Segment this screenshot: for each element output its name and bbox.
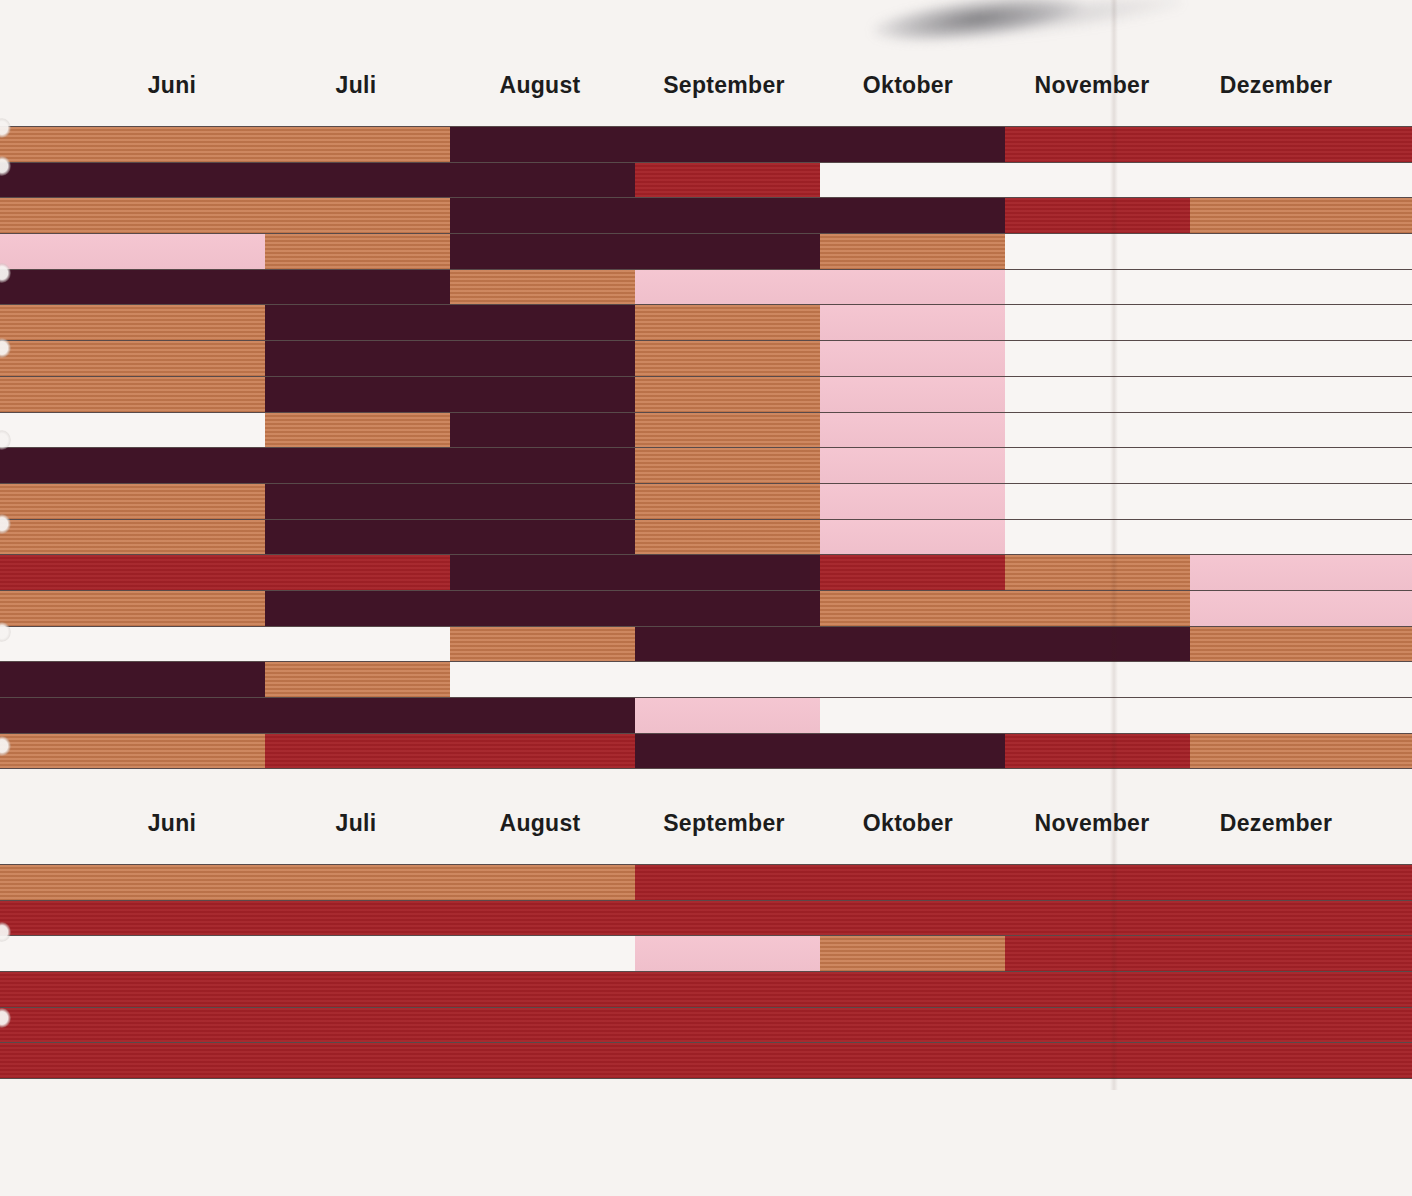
timeline-row [0,554,1412,590]
segment-orange [0,305,265,340]
timeline-row [0,1042,1412,1078]
segment-dark-maroon [265,484,635,519]
segment-dark-maroon [0,662,265,697]
timeline-row [0,864,1412,900]
segment-red [820,555,1005,590]
segment-orange [265,413,450,448]
month-label: Juli [264,806,448,840]
segment-orange [450,270,635,305]
timeline-row [0,304,1412,340]
timeline-row [0,590,1412,626]
book-page: JuniJuliAugustSeptemberOktoberNovemberDe… [0,0,1412,1196]
timeline-row [0,733,1412,769]
timeline-row [0,412,1412,448]
segment-orange [635,520,820,555]
segment-red [0,555,450,590]
timeline-row [0,483,1412,519]
segment-dark-maroon [265,341,635,376]
timeline-row [0,233,1412,269]
timeline-row [0,126,1412,162]
month-label: Juni [80,806,264,840]
segment-white [0,627,450,662]
segment-orange [0,734,265,769]
segment-dark-maroon [0,270,450,305]
segment-white [1005,413,1412,448]
segment-pink [820,484,1005,519]
segment-orange [265,662,450,697]
segment-white [450,662,1412,697]
photo-smudge-artifact [869,0,1184,67]
segment-orange [0,127,450,162]
segment-pink [635,270,1005,305]
segment-red [1005,198,1190,233]
segment-dark-maroon [265,520,635,555]
month-label: Dezember [1184,68,1368,102]
segment-white [1005,341,1412,376]
segment-orange [0,377,265,412]
segment-white [1005,448,1412,483]
segment-white [1005,234,1412,269]
segment-orange [820,936,1005,971]
segment-red [635,865,1412,900]
segment-pink [1190,555,1412,590]
segment-white [1005,520,1412,555]
segment-white [0,413,265,448]
segment-red [0,1008,1412,1043]
segment-dark-maroon [450,555,820,590]
segment-dark-maroon [450,127,1005,162]
segment-dark-maroon [450,413,635,448]
segment-orange [820,234,1005,269]
segment-dark-maroon [265,305,635,340]
segment-orange [635,413,820,448]
segment-white [0,936,635,971]
timeline-row [0,447,1412,483]
month-header-bottom: JuniJuliAugustSeptemberOktoberNovemberDe… [80,806,1368,840]
segment-orange [1005,555,1190,590]
segment-orange [265,234,450,269]
timeline-row [0,1007,1412,1043]
segment-pink [820,341,1005,376]
segment-dark-maroon [635,627,1190,662]
segment-pink [635,936,820,971]
segment-orange [1190,198,1412,233]
timeline-row [0,935,1412,971]
month-label: August [448,806,632,840]
timeline-row [0,519,1412,555]
timeline-row [0,269,1412,305]
segment-red [1005,127,1412,162]
segment-pink [635,698,820,733]
month-label: August [448,68,632,102]
segment-pink [0,234,265,269]
segment-orange [635,305,820,340]
month-label: Juni [80,68,264,102]
segment-orange [1190,734,1412,769]
segment-orange [635,341,820,376]
segment-dark-maroon [635,734,1005,769]
segment-white [1005,484,1412,519]
segment-orange [0,591,265,626]
segment-red [0,901,1412,936]
timeline-chart-top [0,126,1412,769]
timeline-row [0,971,1412,1007]
timeline-row [0,197,1412,233]
timeline-row [0,697,1412,733]
page-crease-artifact [1110,0,1118,1090]
segment-dark-maroon [0,163,635,198]
segment-orange [635,484,820,519]
segment-orange [0,865,635,900]
timeline-row [0,340,1412,376]
month-label: Juli [264,68,448,102]
timeline-row [0,162,1412,198]
segment-dark-maroon [450,198,1005,233]
segment-dark-maroon [450,234,820,269]
segment-pink [1190,591,1412,626]
segment-pink [820,448,1005,483]
timeline-chart-bottom [0,864,1412,1079]
segment-pink [820,520,1005,555]
segment-red [265,734,635,769]
month-label: Oktober [816,806,1000,840]
segment-dark-maroon [265,377,635,412]
segment-orange [635,448,820,483]
segment-dark-maroon [0,448,635,483]
month-label: Dezember [1184,806,1368,840]
